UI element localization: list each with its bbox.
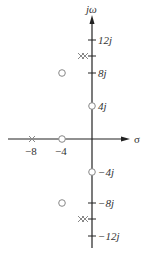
real-axis-arrow-icon xyxy=(121,137,130,142)
zero-marker-icon xyxy=(89,169,96,176)
svg-text:−8j: −8j xyxy=(98,197,114,209)
real-axis-label: σ xyxy=(134,133,140,145)
zero-marker-icon xyxy=(89,103,96,110)
imag-tick-minus-4: −4j xyxy=(98,166,114,178)
imaginary-axis-arrow-icon xyxy=(90,15,95,24)
svg-text:−4j: −4j xyxy=(98,166,114,178)
double-pole-upper-icon xyxy=(78,53,96,59)
svg-text:−12j: −12j xyxy=(98,230,119,242)
zero-marker-icon xyxy=(59,136,66,143)
imaginary-axis-label: jω xyxy=(84,3,97,15)
pole-zero-plot: jω σ 12j 8j 4j −4j −8j −12j −8 −4 xyxy=(0,0,152,253)
real-tick-minus-4: −4 xyxy=(55,145,67,157)
imag-tick-minus-12: −12j xyxy=(88,230,119,242)
svg-text:8j: 8j xyxy=(98,67,107,79)
zero-marker-icon xyxy=(59,200,66,207)
svg-text:12j: 12j xyxy=(98,34,112,46)
real-tick-minus-8: −8 xyxy=(25,145,37,157)
svg-text:4j: 4j xyxy=(98,100,107,112)
zero-marker-icon xyxy=(59,70,66,77)
imag-tick-4: 4j xyxy=(98,100,107,112)
imag-tick-8: 8j xyxy=(88,67,107,79)
double-pole-lower-icon xyxy=(78,216,96,222)
